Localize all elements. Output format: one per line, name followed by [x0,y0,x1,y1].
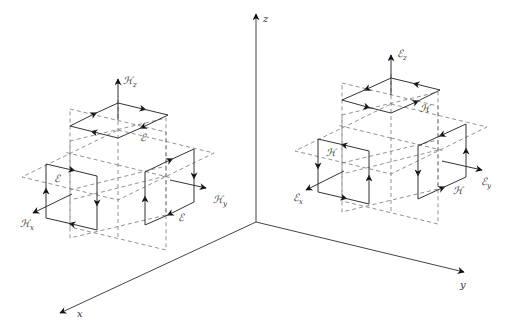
yee-cell-diagram [0,0,505,328]
h-loop-label-top: ℋ [420,104,430,114]
ex-label: ℰx [293,193,303,206]
hx-arrow [33,194,72,213]
ex-arrow [306,171,344,190]
ey-label: ℰy [481,177,491,190]
left-dashed-planes [22,100,214,250]
y-axis-label: y [460,280,466,290]
y-axis [256,222,464,272]
hz-label: ℋz [123,76,137,89]
h-loop-label-left: ℋ [326,148,336,158]
hy-label: ℋy [213,195,227,208]
e-loop-label-left: ℰ [54,174,60,184]
e-loop-label-top: ℰ [140,133,146,143]
ey-arrow [442,161,482,170]
h-loop-label-right: ℋ [453,186,463,196]
hy-arrow [170,180,206,188]
z-axis-label: z [263,14,268,24]
right-yee-cell [295,55,487,224]
e-loop-label-right: ℰ [178,213,184,223]
x-axis-label: x [77,309,83,319]
ez-label: ℰz [397,49,407,62]
left-yee-cell [22,79,214,250]
x-axis [60,222,256,313]
left-right-loop [145,149,194,225]
hx-label: ℋx [20,219,34,232]
right-dashed-planes [295,74,487,224]
